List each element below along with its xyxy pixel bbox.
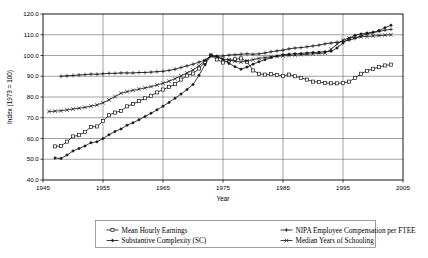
legend-label-1: Substantive Complexity (SC) <box>122 237 207 245</box>
y-tick-label: 120.0 <box>23 10 39 17</box>
x-axis-title: Year <box>217 195 231 202</box>
data-series <box>47 23 393 160</box>
x-tick-label: 1945 <box>36 184 50 191</box>
y-tick-label: 40.0 <box>27 176 40 183</box>
y-tick-label: 50.0 <box>27 155 40 162</box>
legend-entry-0[interactable]: Mean Hourly Earnings <box>107 227 188 235</box>
chart-legend: Mean Hourly EarningsSubstantive Complexi… <box>96 221 417 248</box>
y-tick-label: 100.0 <box>23 52 39 59</box>
legend-entry-1[interactable]: Substantive Complexity (SC) <box>107 237 207 245</box>
x-tick-label: 1975 <box>216 184 230 191</box>
y-tick-label: 60.0 <box>27 135 40 142</box>
x-tick-label: 2005 <box>396 184 410 191</box>
x-tick-label: 1985 <box>276 184 290 191</box>
y-axis-ticks: 40.050.060.070.080.090.0100.0110.0120.0 <box>23 10 43 183</box>
y-axis-title: Index (1973 = 100) <box>6 70 14 124</box>
x-axis-ticks: 1945195519651975198519952005 <box>36 180 410 191</box>
y-tick-label: 110.0 <box>24 31 40 38</box>
x-tick-label: 1955 <box>96 184 110 191</box>
y-tick-label: 90.0 <box>27 72 40 79</box>
legend-label-3: Median Years of Schooling <box>296 237 375 245</box>
legend-label-0: Mean Hourly Earnings <box>122 227 188 235</box>
legend-entry-2[interactable]: NIPA Employee Compensation per FTEE <box>281 227 417 235</box>
x-tick-label: 1965 <box>156 184 170 191</box>
chart-figure: 40.050.060.070.080.090.0100.0110.0120.0 … <box>0 0 428 258</box>
y-tick-label: 70.0 <box>27 114 40 121</box>
chart-canvas: 40.050.060.070.080.090.0100.0110.0120.0 … <box>0 0 428 258</box>
x-tick-label: 1995 <box>336 184 350 191</box>
legend-entry-3[interactable]: Median Years of Schooling <box>281 237 375 245</box>
y-tick-label: 80.0 <box>27 93 40 100</box>
legend-label-2: NIPA Employee Compensation per FTEE <box>296 227 417 235</box>
